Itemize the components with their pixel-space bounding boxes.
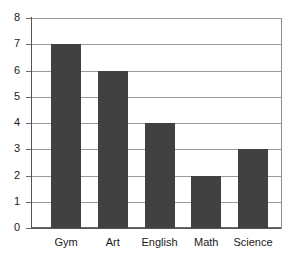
bar-gym bbox=[51, 44, 81, 228]
bar-art bbox=[98, 71, 128, 229]
y-tick-label-3: 3 bbox=[0, 143, 20, 154]
x-tick-label-science: Science bbox=[213, 236, 293, 248]
y-tick-label-7: 7 bbox=[0, 38, 20, 49]
plot-area bbox=[31, 18, 282, 228]
y-tick-label-1: 1 bbox=[0, 196, 20, 207]
y-tick-label-6: 6 bbox=[0, 65, 20, 76]
y-tick-mark-3 bbox=[26, 149, 31, 150]
y-tick-mark-6 bbox=[26, 71, 31, 72]
y-tick-mark-7 bbox=[26, 44, 31, 45]
bar-english bbox=[145, 123, 175, 228]
y-tick-label-0: 0 bbox=[0, 222, 20, 233]
y-tick-label-5: 5 bbox=[0, 91, 20, 102]
y-tick-mark-8 bbox=[26, 18, 31, 19]
y-tick-mark-0 bbox=[26, 228, 31, 229]
y-axis-line bbox=[31, 17, 32, 229]
x-axis-line bbox=[31, 228, 282, 229]
gridline-8 bbox=[31, 18, 282, 19]
y-tick-mark-2 bbox=[26, 176, 31, 177]
y-tick-label-8: 8 bbox=[0, 12, 20, 23]
y-tick-mark-1 bbox=[26, 202, 31, 203]
bar-chart: 012345678 GymArtEnglishMathScience bbox=[0, 0, 299, 266]
y-tick-mark-4 bbox=[26, 123, 31, 124]
bar-science bbox=[238, 149, 268, 228]
bar-math bbox=[191, 176, 221, 229]
plot-right-border bbox=[281, 18, 282, 229]
y-tick-label-2: 2 bbox=[0, 170, 20, 181]
y-tick-label-4: 4 bbox=[0, 117, 20, 128]
y-tick-mark-5 bbox=[26, 97, 31, 98]
